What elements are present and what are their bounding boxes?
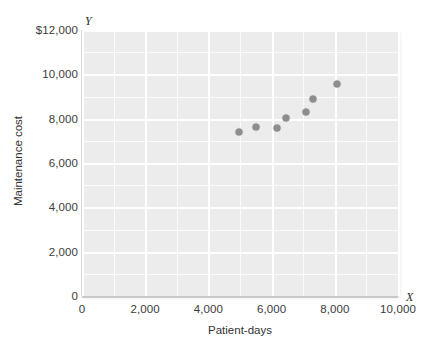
- x-axis-tick-label: 2,000: [131, 303, 160, 315]
- scatter-chart: 02,0004,0006,0008,00010,000$12,000 02,00…: [0, 0, 439, 359]
- plot-area: [82, 30, 398, 296]
- data-point: [252, 123, 259, 130]
- x-axis-tick-label: 6,000: [257, 303, 286, 315]
- y-axis-tick-label: 0: [2, 290, 78, 302]
- y-axis-line: [81, 30, 82, 296]
- x-axis-line: [82, 296, 398, 298]
- x-axis-tick-label: 4,000: [194, 303, 223, 315]
- gridline-vertical: [398, 30, 400, 296]
- y-axis-letter: Y: [85, 14, 92, 29]
- data-point: [273, 124, 280, 131]
- data-point: [303, 109, 310, 116]
- data-point: [309, 95, 316, 102]
- y-axis-tick-label: 2,000: [2, 246, 78, 258]
- y-axis-tick-label: $12,000: [2, 24, 78, 36]
- data-point: [283, 115, 290, 122]
- x-axis-title: Patient-days: [82, 324, 398, 336]
- data-point: [236, 128, 243, 135]
- x-axis-tick-label: 0: [79, 303, 86, 315]
- data-points-layer: [82, 30, 398, 296]
- x-axis-tick-label: 8,000: [320, 303, 349, 315]
- x-axis-letter: X: [406, 290, 413, 305]
- y-axis-tick-label: 10,000: [2, 68, 78, 80]
- y-axis-title: Maintenance cost: [12, 81, 24, 241]
- data-point: [333, 80, 340, 87]
